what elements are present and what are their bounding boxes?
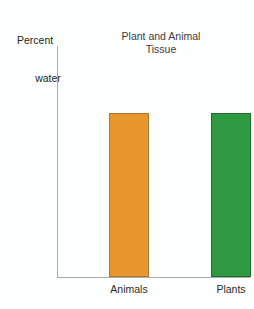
plot-area: 1009080706050403020100 AnimalsPlants [57, 46, 250, 278]
bar-animals [109, 113, 149, 277]
x-axis-line [57, 277, 250, 278]
bar-chart-figure: Percent water Plant and Animal Tissue 10… [0, 0, 254, 309]
chart-title-line-1: Plant and Animal [86, 30, 236, 43]
y-axis-line [57, 46, 58, 277]
y-axis-label-line-1: Percent [16, 34, 80, 47]
bar-plants [211, 113, 251, 277]
category-label-plants: Plants [185, 283, 254, 295]
category-label-animals: Animals [83, 283, 175, 295]
